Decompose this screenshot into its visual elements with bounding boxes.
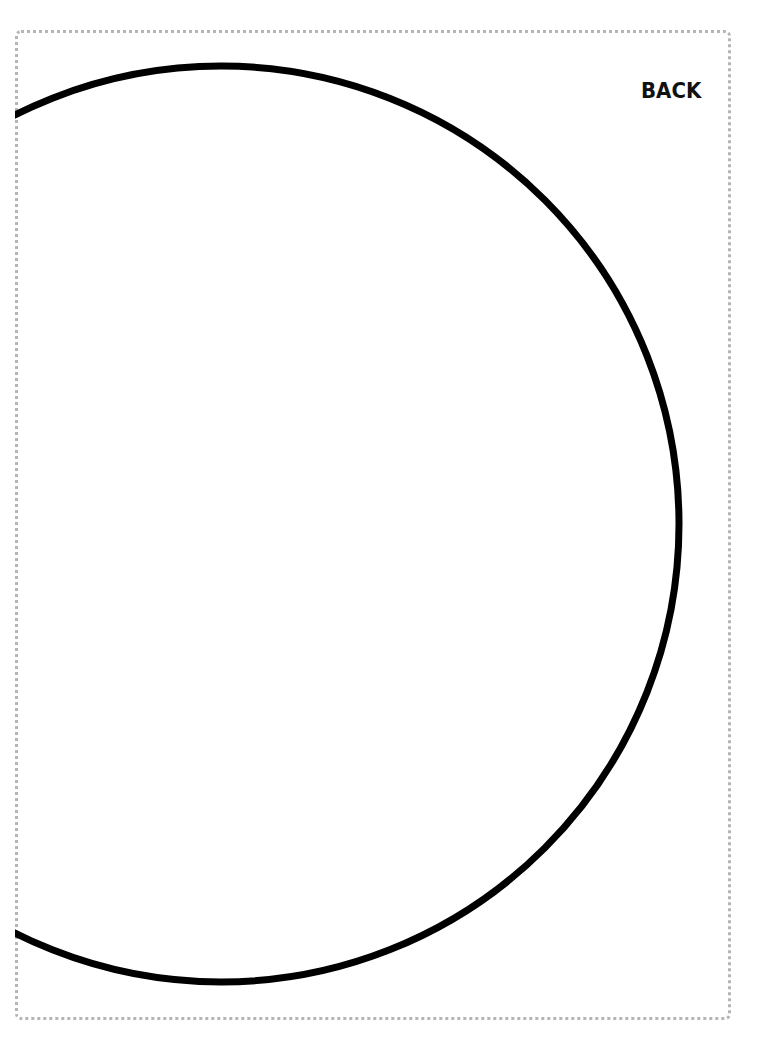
circle-outline-shape [0, 0, 763, 1054]
back-label: BACK [641, 80, 701, 102]
circle-outline [0, 66, 679, 982]
